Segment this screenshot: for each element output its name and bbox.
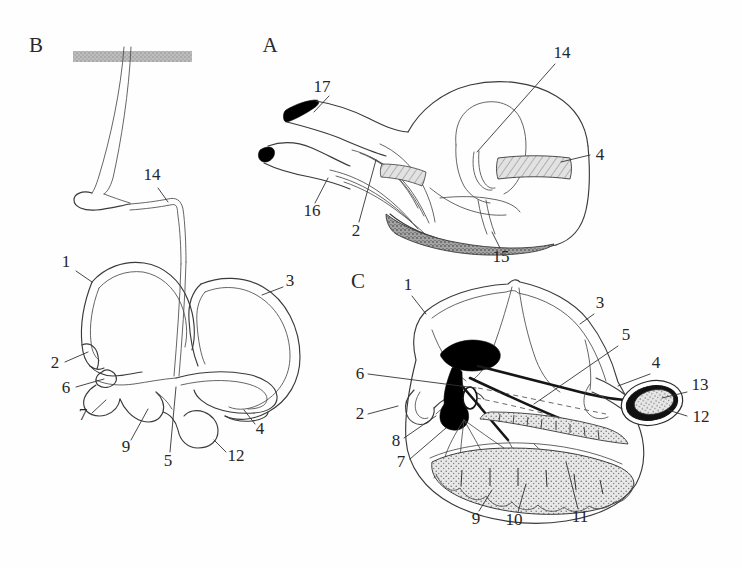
lateral-canal-return bbox=[194, 390, 254, 413]
saccular-pouch-left bbox=[456, 145, 490, 203]
otoconial-floor-15 bbox=[386, 214, 554, 255]
endolymphatic-hook-14-a bbox=[473, 152, 492, 190]
vestibular-ganglion-8 bbox=[441, 340, 501, 371]
figure-root: B 14 1 3 2 6 7 9 5 12 4 bbox=[0, 0, 742, 568]
callout-c-6: 6 bbox=[356, 364, 365, 383]
interior-duct-a bbox=[478, 200, 487, 234]
lateral-canal-lower bbox=[181, 381, 267, 409]
leader-a-15 bbox=[492, 232, 500, 248]
membrane-band-4 bbox=[497, 156, 572, 179]
callout-c-13: 13 bbox=[692, 375, 709, 394]
callout-a-17: 17 bbox=[314, 77, 332, 96]
callout-b-14: 14 bbox=[144, 165, 162, 184]
anatomical-figure-svg: B 14 1 3 2 6 7 9 5 12 4 bbox=[0, 0, 742, 568]
interior-duct-b bbox=[486, 200, 495, 234]
callout-b-3: 3 bbox=[286, 271, 295, 290]
leader-b-5 bbox=[170, 387, 176, 452]
callout-b-2: 2 bbox=[51, 353, 60, 372]
endolymphatic-sac bbox=[74, 192, 130, 210]
nerve-tip-dark-16 bbox=[258, 147, 274, 162]
duct-horizontal-upper bbox=[130, 198, 186, 262]
panel-letter-b: B bbox=[29, 33, 43, 57]
posterior-canal-inner bbox=[205, 287, 290, 409]
panel-a-drawing bbox=[258, 82, 589, 255]
leader-a-16 bbox=[315, 178, 328, 203]
posterior-canal-left-limb-inner bbox=[197, 292, 205, 364]
leader-a-14 bbox=[477, 64, 555, 152]
panel-b-drawing bbox=[73, 47, 300, 448]
callout-c-2: 2 bbox=[356, 404, 365, 423]
nerve-band-lower-top bbox=[268, 143, 350, 166]
leader-c-1 bbox=[412, 296, 426, 314]
leader-c-2 bbox=[368, 406, 398, 414]
ampulla-2-outer bbox=[405, 390, 434, 424]
nerve-band-upper-top bbox=[316, 101, 408, 132]
endolymphatic-sac-lower bbox=[104, 194, 130, 203]
endolymphatic-duct-line-right bbox=[104, 47, 131, 194]
sacculus-9 bbox=[432, 448, 634, 514]
lateral-canal-upper bbox=[176, 372, 277, 413]
callout-a-2: 2 bbox=[352, 221, 361, 240]
callout-b-1: 1 bbox=[62, 252, 71, 271]
duct-horizontal-lower bbox=[130, 205, 181, 264]
saccule-body-9 bbox=[120, 392, 164, 422]
leader-c-3 bbox=[580, 314, 594, 324]
anterior-canal-outer bbox=[81, 282, 104, 369]
endolymphatic-hook-14-b bbox=[479, 151, 495, 188]
leader-b-12 bbox=[214, 440, 226, 452]
leader-c-5 bbox=[534, 346, 618, 404]
panel-letter-a: A bbox=[262, 33, 278, 57]
chamber-divider-right bbox=[519, 288, 560, 392]
nerve-fibre-7 bbox=[380, 144, 435, 222]
callout-b-7: 7 bbox=[79, 405, 88, 424]
callout-c-7: 7 bbox=[397, 452, 406, 471]
ampulla-2-inner bbox=[415, 392, 428, 419]
callout-a-4: 4 bbox=[596, 145, 605, 164]
bone-cross-section-bar bbox=[73, 51, 192, 62]
callout-c-5: 5 bbox=[622, 325, 631, 344]
leader-b-4 bbox=[244, 410, 255, 424]
callout-c-12: 12 bbox=[693, 407, 710, 426]
panel-c-drawing bbox=[405, 280, 686, 523]
callout-c-1: 1 bbox=[404, 275, 413, 294]
callout-c-3: 3 bbox=[596, 293, 605, 312]
panel-letter-c: C bbox=[351, 269, 365, 293]
callout-c-9: 9 bbox=[472, 509, 481, 528]
callout-c-11: 11 bbox=[572, 507, 588, 526]
callout-b-6: 6 bbox=[62, 378, 71, 397]
nerve-band-upper-bottom bbox=[287, 122, 386, 156]
membrane-band-left bbox=[380, 164, 426, 186]
posterior-canal-outer bbox=[201, 278, 300, 419]
vestibule-outer-top bbox=[408, 82, 588, 146]
callout-c-4: 4 bbox=[652, 353, 661, 372]
leader-b-7 bbox=[92, 400, 106, 413]
callout-b-9: 9 bbox=[122, 437, 131, 456]
callout-b-12: 12 bbox=[228, 446, 245, 465]
callout-b-4: 4 bbox=[256, 419, 265, 438]
callout-a-16: 16 bbox=[304, 201, 321, 220]
endolymphatic-duct-line-left bbox=[92, 47, 124, 193]
callout-c-10: 10 bbox=[506, 510, 523, 529]
leader-a-2 bbox=[359, 160, 376, 222]
saccule-lobe-7 bbox=[84, 385, 120, 416]
leader-c-7 bbox=[410, 428, 446, 459]
saccular-pouch bbox=[456, 102, 526, 194]
anterior-canal-inner bbox=[90, 288, 99, 360]
callout-c-8: 8 bbox=[392, 431, 401, 450]
utricle-body-lower bbox=[96, 378, 176, 385]
anterior-canal-inner-top bbox=[99, 272, 187, 347]
leader-b-9 bbox=[131, 409, 148, 440]
panel-a-annotations: A 17 16 2 15 14 4 bbox=[262, 33, 604, 266]
callout-b-5: 5 bbox=[164, 451, 173, 470]
panel-b-annotations: B 14 1 3 2 6 7 9 5 12 4 bbox=[29, 33, 294, 470]
leader-b-1 bbox=[76, 271, 92, 282]
nerve-tip-dark-17 bbox=[283, 100, 318, 122]
callout-a-15: 15 bbox=[493, 247, 510, 266]
posterior-canal-left-limb bbox=[189, 284, 201, 366]
callout-a-14: 14 bbox=[554, 43, 572, 62]
macula-band-upper bbox=[480, 412, 628, 444]
